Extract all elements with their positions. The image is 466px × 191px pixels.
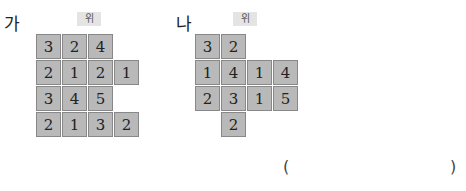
grid-cell: 1 <box>114 60 139 85</box>
grid-cell: 5 <box>273 86 298 111</box>
grid-cell: 2 <box>114 112 139 137</box>
grid-cell: 4 <box>273 60 298 85</box>
grid-cell: 1 <box>195 60 220 85</box>
grid-cell: 3 <box>221 86 246 111</box>
grid-cell: 2 <box>62 34 87 59</box>
grid-cell: 1 <box>247 60 272 85</box>
grid-cell: 4 <box>88 34 113 59</box>
grid-cell: 3 <box>195 34 220 59</box>
grid-cell: 2 <box>36 112 61 137</box>
grid-cell: 2 <box>221 112 246 137</box>
grid-cell: 3 <box>36 86 61 111</box>
grid-cell: 2 <box>88 60 113 85</box>
grid-cell: 5 <box>88 86 113 111</box>
grid-cell: 3 <box>36 34 61 59</box>
figure-a-label: 가 <box>4 10 20 35</box>
grid-cell: 1 <box>62 112 87 137</box>
grid-cell: 1 <box>247 86 272 111</box>
figure-a-top-tag: 위 <box>77 12 101 26</box>
figure-b-top-tag: 위 <box>233 12 257 26</box>
answer-close-paren: ) <box>450 157 456 176</box>
grid-cell: 2 <box>36 60 61 85</box>
grid-cell: 1 <box>62 60 87 85</box>
grid-cell: 4 <box>62 86 87 111</box>
grid-cell: 2 <box>195 86 220 111</box>
grid-cell: 4 <box>221 60 246 85</box>
answer-open-paren: ( <box>283 157 289 176</box>
figure-b-label: 나 <box>176 10 192 35</box>
grid-cell: 2 <box>221 34 246 59</box>
grid-cell: 3 <box>88 112 113 137</box>
